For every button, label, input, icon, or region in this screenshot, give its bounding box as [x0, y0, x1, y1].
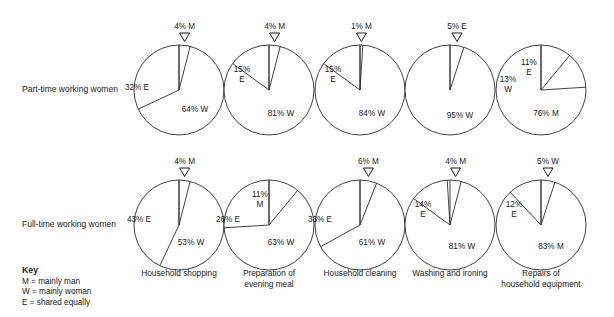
slice-callout-triangle-icon: [180, 168, 190, 177]
pie-chart: 4% M81% W15%E: [224, 22, 314, 135]
pie-chart: 5% W83% M12%E: [496, 157, 586, 270]
slice-callout-label: 5% E: [447, 22, 467, 31]
slice-callout-triangle-icon: [270, 33, 280, 42]
row-label-part-time: Part-time working women: [22, 84, 118, 94]
category-label: Repairs of household equipment: [481, 268, 601, 289]
row-label-full-time: Full-time working women: [22, 219, 116, 229]
slice-callout-label: 4% M: [174, 157, 195, 166]
slice-label: 81% W: [449, 242, 476, 251]
pie-chart: 11%M63% W26% E: [216, 180, 314, 270]
slice-label: 53% W: [178, 238, 205, 247]
slice-label: 63% W: [268, 238, 295, 247]
slice-label: 43% E: [127, 215, 152, 224]
slice-callout-label: 1% M: [351, 22, 372, 31]
key-entry-e: E = shared equally: [22, 298, 91, 309]
slice-callout-triangle-icon: [451, 168, 461, 177]
pie-chart: 6% M61% W33% E: [308, 157, 405, 270]
pie-chart: 11%E13%W76% M: [496, 45, 586, 135]
slice-label: 83% M: [538, 242, 564, 251]
slice-callout-label: 6% M: [358, 157, 379, 166]
slice-label: 32% E: [125, 83, 150, 92]
slice-callout-label: 4% M: [445, 157, 466, 166]
slice-label: 95% W: [447, 111, 474, 120]
slice-label: 84% W: [359, 109, 386, 118]
pie-chart: 1% M84% W15%E: [315, 22, 405, 135]
slice-callout-triangle-icon: [180, 33, 190, 42]
slice-callout-label: 5% W: [537, 157, 559, 166]
slice-callout-triangle-icon: [356, 33, 366, 42]
slice-label: 76% M: [533, 109, 559, 118]
key-entry-w: W = mainly woman: [22, 287, 91, 298]
key-title: Key: [22, 265, 91, 276]
slice-label: 33% E: [308, 215, 333, 224]
slice-callout-triangle-icon: [363, 168, 373, 177]
pie-chart: 4% M81% W14%E: [405, 157, 495, 270]
slice-callout-label: 4% M: [174, 22, 195, 31]
slice-callout-triangle-icon: [543, 168, 553, 177]
pie-chart: 4% M64% W32% E: [125, 22, 224, 135]
slice-label: 64% W: [182, 105, 209, 114]
pie-chart: 5% E95% W: [405, 22, 495, 135]
pie-chart: 4% M53% W43% E: [127, 157, 224, 270]
slice-label: 61% W: [359, 238, 386, 247]
slice-label: 26% E: [216, 215, 241, 224]
key-entry-m: M = mainly man: [22, 277, 91, 288]
slice-label: 81% W: [268, 109, 295, 118]
slice-callout-label: 4% M: [264, 22, 285, 31]
key-legend: Key M = mainly man W = mainly woman E = …: [22, 265, 91, 308]
slice-callout-triangle-icon: [452, 33, 462, 42]
